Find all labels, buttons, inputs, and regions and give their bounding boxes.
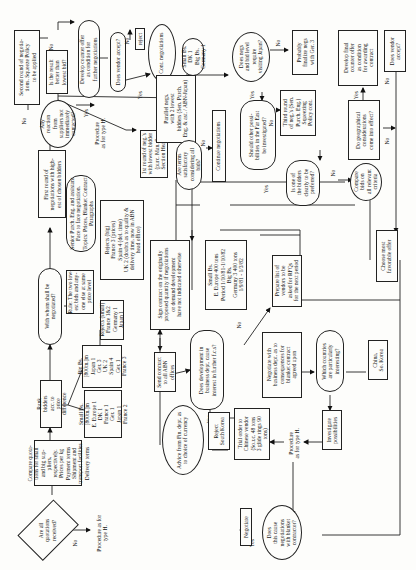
- node-procedure-type-h-invest: Procedure as for type H.: [285, 418, 303, 468]
- edge-label-no: No: [384, 78, 390, 85]
- node-reject-south-korea: Reject South Korea: [208, 412, 230, 450]
- edge-label-no: No: [200, 140, 206, 147]
- node-prepare-list: Prepare list of vendors to be asked for …: [272, 255, 302, 307]
- node-procedure-type-h-reaction: Procedure as for type H.: [90, 108, 110, 158]
- edge-label-yes: Yes: [83, 109, 89, 117]
- edge-label-no: No: [236, 322, 242, 329]
- node-other-possibilities: Should other possi- bilities in the Far …: [240, 100, 276, 170]
- edge-label-yes: Yes: [353, 91, 359, 99]
- node-advice-fin-dept: Advice from Fin. dept. as to choice of c…: [162, 405, 204, 475]
- edge-label-yes: Yes: [137, 91, 143, 99]
- node-cont-negotiations: Cont. negotiations: [148, 24, 176, 82]
- edge-label-no: No: [21, 118, 27, 125]
- node-probably-finalize: Probably finalize negs with Ger. 3: [292, 30, 318, 75]
- node-rank-bidders: Rank bidders acc. to price difference: [40, 380, 62, 428]
- node-senior-purchase-negotiation: Senior Purch. Eng. and assistant Face to…: [66, 175, 96, 252]
- node-negotiate: Negotiate: [240, 508, 252, 546]
- node-with-whom-negotiated: With whom shall be negotiated?: [38, 268, 62, 345]
- node-does-negs-require-visit: Does negs and bid level require visiting…: [232, 32, 270, 82]
- edge-label-no: No: [275, 40, 281, 47]
- node-small-bidders-list: Small Bs. [800tn.]m E. Europe 1 DK 1 Fra…: [84, 390, 122, 438]
- node-small-big-bs-result: Small Bs. DK 1 Big Bs. Germany 1: [182, 38, 204, 76]
- node-parallel-negotiations: Parallel negs. with 2 lowest bidders (Se…: [156, 75, 196, 143]
- node-are-terms-satisfactory: Are terms satisfactory considering all b…: [176, 140, 202, 190]
- node-all-quotations-received: Are all quotations received?: [24, 495, 72, 565]
- node-does-this-cause: Does this cause negotiations with blanke…: [262, 505, 302, 560]
- node-send-contract: Send contract to all ABN offices: [154, 352, 176, 392]
- node-develop-final-counter: Develop final counter offer as condition…: [338, 30, 378, 86]
- node-second-round-negotiations: Second round of negotia- tions. Squeeze …: [14, 30, 40, 105]
- edge-label-no: No: [384, 138, 390, 145]
- edge-label-yes: Yes: [263, 185, 269, 193]
- node-does-vendor-accept-2: Does vendor accept?: [384, 30, 406, 72]
- edge-label-no: No: [124, 38, 130, 45]
- edge-label-no: No: [268, 120, 274, 127]
- node-compare-quotations: Compare quota- tions for small and big s…: [34, 440, 82, 486]
- node-rejects-small: Rejects (small) France 1&2 Germany 1 Jap…: [100, 300, 124, 340]
- node-big-bidders-list: Big Bs. [800tn.]m Japan 1 Ger. 3 UK 2 Sp…: [82, 345, 122, 388]
- node-third-round: Third round of neg.'s (Sen. Purch. Eng.)…: [280, 90, 316, 136]
- node-any-reaction: Any reaction from suppliers not immediat…: [40, 100, 76, 148]
- edge-label-no: No: [330, 170, 336, 177]
- node-negotiate-business: Negotiate with business dept. as to cons…: [262, 332, 302, 398]
- node-procedure-type-h-start: Procedure as for type H.: [92, 508, 112, 558]
- node-sign-contract: Sign contract on the originally proposed…: [150, 240, 190, 330]
- node-continue-negotiations: Continue negotiations: [212, 110, 226, 182]
- node-choose-most-favorable: Choose most favorable offer: [376, 230, 398, 282]
- node-rule-two-lowest: Rule: The two low- est bids and any- one…: [66, 270, 94, 314]
- node-first-round-negotiations: First round of negotiations with high- e…: [38, 150, 66, 218]
- node-rejects-big: Rejects (big) France 3 (prices) Spain 4 …: [100, 200, 144, 280]
- node-which-countries: Which countries are particularly interes…: [316, 330, 344, 392]
- node-compare-bids: Compare bids on all relevant criteria: [350, 163, 382, 201]
- node-is-result-better: Is the result better than lowest bid?: [46, 50, 68, 94]
- edge-label-no: No: [72, 540, 78, 547]
- node-trial-order: Trial order to Chinese vendor (So.r.c. 4…: [234, 408, 270, 460]
- node-small-big-contract: Small Bs. E. Europe 400 tons Period 1/10…: [205, 240, 247, 310]
- node-investigate: Investigate possibilities: [322, 410, 342, 450]
- edge-label-yes: Yes: [249, 91, 255, 99]
- node-does-development: Does development in business dept. cause…: [190, 330, 224, 410]
- node-china-korea: China, So. Korea: [368, 340, 388, 380]
- node-geographical-considerations: Do geographical considerations come into…: [348, 100, 380, 160]
- node-is-one-preferred: Is one of the bidders clearly to be pref…: [286, 160, 320, 206]
- node-reject: reject: [135, 28, 145, 50]
- node-develop-counter-offer: Develop counter offer as condition for f…: [78, 20, 100, 98]
